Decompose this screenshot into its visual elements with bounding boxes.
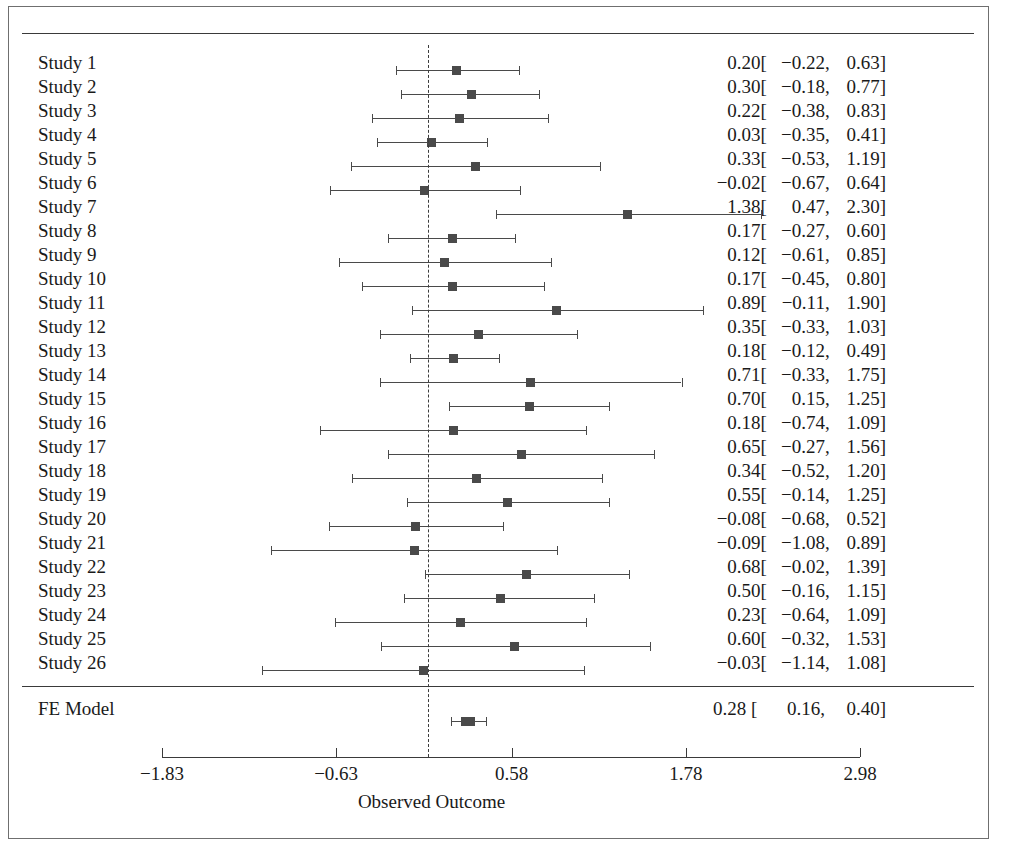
- study-lower-bound: −0.74: [767, 413, 825, 432]
- study-row-value: −0.02[−0.67,0.64]: [699, 173, 886, 192]
- study-row-value: 0.60[−0.32,1.53]: [699, 629, 886, 648]
- study-point-marker: [449, 426, 458, 435]
- study-ci-cap-lower: [352, 474, 353, 483]
- study-row-label: Study 13: [38, 341, 106, 360]
- study-ci-cap-upper: [761, 210, 762, 219]
- study-point-marker: [526, 378, 535, 387]
- study-close-bracket: ]: [880, 244, 886, 265]
- study-upper-bound: 0.80: [830, 269, 880, 288]
- study-upper-bound: 1.25: [830, 389, 880, 408]
- study-close-bracket: ]: [880, 508, 886, 529]
- summary-ci-cap-lower: [451, 717, 452, 726]
- study-ci-cap-upper: [682, 378, 683, 387]
- study-lower-bound: −0.14: [767, 485, 825, 504]
- study-upper-bound: 0.41: [830, 125, 880, 144]
- study-row-value: 0.68[−0.02,1.39]: [699, 557, 886, 576]
- study-point-marker: [496, 594, 505, 603]
- study-point-marker: [440, 258, 449, 267]
- study-point-marker: [410, 546, 419, 555]
- study-row-value: −0.08[−0.68,0.52]: [699, 509, 886, 528]
- study-point-marker: [503, 498, 512, 507]
- study-point-marker: [510, 642, 519, 651]
- study-point-marker: [472, 474, 481, 483]
- study-ci-cap-lower: [380, 378, 381, 387]
- study-row-value: 0.22[−0.38,0.83]: [699, 101, 886, 120]
- study-row-value: 0.30[−0.18,0.77]: [699, 77, 886, 96]
- study-upper-bound: 1.09: [830, 413, 880, 432]
- study-point-marker: [456, 618, 465, 627]
- study-close-bracket: ]: [880, 100, 886, 121]
- study-row-label: Study 26: [38, 653, 106, 672]
- study-ci-cap-upper: [594, 594, 595, 603]
- summary-upper-bound: 0.40: [830, 699, 880, 718]
- study-row-label: Study 10: [38, 269, 106, 288]
- study-upper-bound: 1.03: [830, 317, 880, 336]
- x-axis-title-text: Observed Outcome: [358, 791, 505, 812]
- zero-reference-line: [428, 45, 429, 757]
- study-close-bracket: ]: [880, 580, 886, 601]
- study-ci-cap-upper: [609, 402, 610, 411]
- study-row-label: Study 6: [38, 173, 97, 192]
- study-point-marker: [449, 354, 458, 363]
- study-point-marker: [411, 522, 420, 531]
- study-row-value: 0.89[−0.11,1.90]: [699, 293, 886, 312]
- x-axis-line: [162, 757, 860, 758]
- study-ci-cap-lower: [330, 186, 331, 195]
- study-point-marker: [427, 138, 436, 147]
- study-upper-bound: 0.63: [830, 53, 880, 72]
- study-lower-bound: −0.27: [767, 437, 825, 456]
- study-row-value: −0.09[−1.08,0.89]: [699, 533, 886, 552]
- study-close-bracket: ]: [880, 532, 886, 553]
- study-lower-bound: −0.33: [767, 365, 825, 384]
- study-upper-bound: 0.49: [830, 341, 880, 360]
- study-ci-cap-lower: [496, 210, 497, 219]
- study-lower-bound: −0.16: [767, 581, 825, 600]
- study-lower-bound: −0.38: [767, 101, 825, 120]
- study-lower-bound: −0.33: [767, 317, 825, 336]
- study-ci-cap-lower: [351, 162, 352, 171]
- study-lower-bound: −0.52: [767, 461, 825, 480]
- study-row-value: 0.18[−0.12,0.49]: [699, 341, 886, 360]
- summary-estimate: 0.28: [684, 699, 746, 718]
- study-close-bracket: ]: [880, 220, 886, 241]
- study-estimate: 0.18: [699, 341, 761, 360]
- forest-plot-figure: Study 10.20[−0.22,0.63]Study 20.30[−0.18…: [0, 0, 1019, 866]
- study-ci-cap-upper: [503, 522, 504, 531]
- study-ci-cap-lower: [381, 642, 382, 651]
- study-ci-cap-upper: [584, 666, 585, 675]
- study-upper-bound: 0.64: [830, 173, 880, 192]
- study-lower-bound: −0.64: [767, 605, 825, 624]
- study-ci-cap-lower: [329, 522, 330, 531]
- study-ci-cap-lower: [412, 306, 413, 315]
- study-ci-cap-upper: [609, 498, 610, 507]
- study-estimate: −0.03: [699, 653, 761, 672]
- study-lower-bound: 0.47: [767, 197, 825, 216]
- study-upper-bound: 0.85: [830, 245, 880, 264]
- study-ci-cap-upper: [551, 258, 552, 267]
- study-ci-cap-upper: [586, 618, 587, 627]
- study-row-value: 0.18[−0.74,1.09]: [699, 413, 886, 432]
- study-lower-bound: −0.68: [767, 509, 825, 528]
- study-row-value: 0.71[−0.33,1.75]: [699, 365, 886, 384]
- summary-lower-bound: 0.16: [762, 699, 820, 718]
- x-axis-tick-label: −0.63: [314, 764, 358, 784]
- summary-open-bracket: [: [751, 698, 757, 719]
- study-lower-bound: −0.61: [767, 245, 825, 264]
- study-ci-cap-lower: [262, 666, 263, 675]
- x-axis-tick-label: 0.58: [495, 764, 528, 784]
- summary-point-marker: [461, 717, 475, 726]
- study-ci-cap-upper: [499, 354, 500, 363]
- study-close-bracket: ]: [880, 364, 886, 385]
- study-row-value: 0.34[−0.52,1.20]: [699, 461, 886, 480]
- study-estimate: −0.08: [699, 509, 761, 528]
- summary-ci-cap-upper: [486, 717, 487, 726]
- study-close-bracket: ]: [880, 604, 886, 625]
- study-close-bracket: ]: [880, 340, 886, 361]
- study-lower-bound: 0.15: [767, 389, 825, 408]
- study-point-marker: [452, 66, 461, 75]
- study-close-bracket: ]: [880, 124, 886, 145]
- study-upper-bound: 0.89: [830, 533, 880, 552]
- study-lower-bound: −0.67: [767, 173, 825, 192]
- study-row-label: Study 15: [38, 389, 106, 408]
- study-ci-cap-upper: [586, 426, 587, 435]
